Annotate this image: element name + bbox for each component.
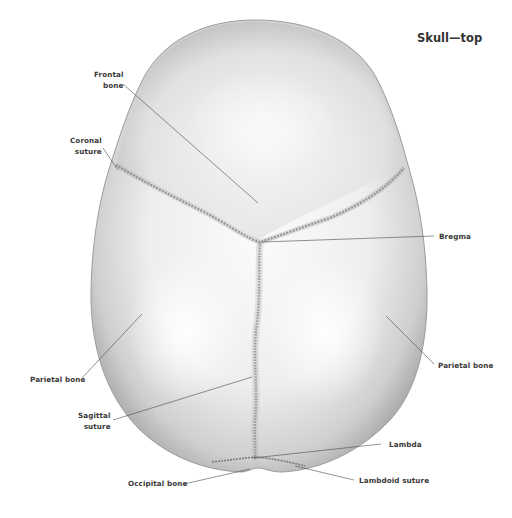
label-occipital-bone: Occipital bone xyxy=(128,478,187,489)
diagram-title: Skull—top xyxy=(417,31,482,45)
skull-top-diagram: Skull—top Frontal bone Coronal suture Br… xyxy=(0,0,512,518)
label-lambdoid-suture: Lambdoid suture xyxy=(359,475,429,486)
leader-line-occipital-bone xyxy=(184,469,250,484)
label-sagittal-suture: Sagittal suture xyxy=(78,410,111,432)
label-lambda: Lambda xyxy=(389,439,422,450)
label-parietal-bone-right: Parietal bone xyxy=(438,360,493,371)
leader-line-lambdoid-suture xyxy=(295,466,354,480)
label-coronal-suture: Coronal suture xyxy=(70,135,102,157)
label-frontal-bone: Frontal bone xyxy=(94,69,124,91)
label-parietal-bone-left: Parietal bone xyxy=(30,374,85,385)
skull-illustration xyxy=(0,0,512,518)
label-bregma: Bregma xyxy=(439,231,471,242)
